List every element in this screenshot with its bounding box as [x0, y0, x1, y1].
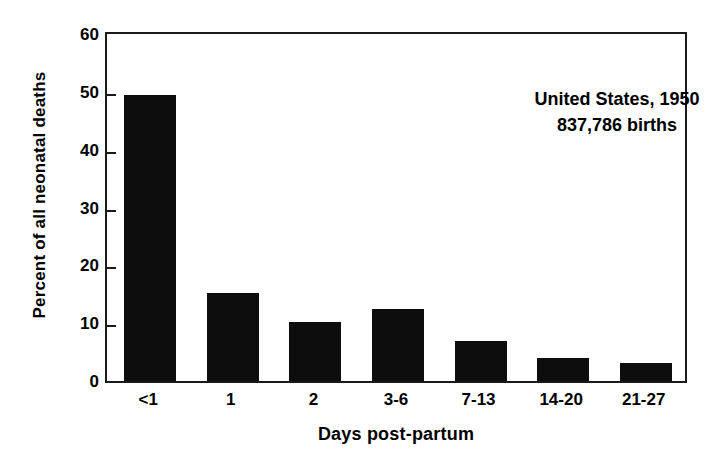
plot-area: 0102030405060 United States, 1950 837,78… — [105, 32, 687, 383]
chart-figure: Percent of all neonatal deaths 010203040… — [0, 0, 713, 469]
x-tick-label: <1 — [107, 390, 190, 410]
bar — [455, 341, 507, 381]
y-tick-label: 40 — [55, 141, 99, 161]
bar — [289, 322, 341, 381]
x-tick-label: 14-20 — [520, 390, 603, 410]
chart-annotation: United States, 1950 837,786 births — [452, 86, 713, 138]
x-tick-label: 7-13 — [437, 390, 520, 410]
bar-slot — [357, 36, 440, 381]
x-axis-title: Days post-partum — [105, 424, 687, 445]
y-axis-title: Percent of all neonatal deaths — [30, 5, 50, 385]
bar — [620, 363, 672, 381]
y-tick-label: 30 — [55, 199, 99, 219]
y-tick-label: 50 — [55, 83, 99, 103]
annotation-line-1: United States, 1950 — [452, 86, 713, 112]
bar — [372, 309, 424, 381]
x-tick-label: 2 — [272, 390, 355, 410]
y-tick-label: 0 — [55, 372, 99, 392]
y-tick-label: 10 — [55, 314, 99, 334]
x-tick-label: 1 — [190, 390, 273, 410]
y-tick-label: 60 — [55, 25, 99, 45]
bar — [207, 293, 259, 381]
annotation-line-2: 837,786 births — [452, 112, 713, 138]
bar — [124, 95, 176, 381]
bar-slot — [274, 36, 357, 381]
y-tick-label: 20 — [55, 256, 99, 276]
bar-slot — [192, 36, 275, 381]
x-tick-label: 21-27 — [602, 390, 685, 410]
bar — [537, 358, 589, 381]
x-tick-label: 3-6 — [355, 390, 438, 410]
bar-slot — [109, 36, 192, 381]
